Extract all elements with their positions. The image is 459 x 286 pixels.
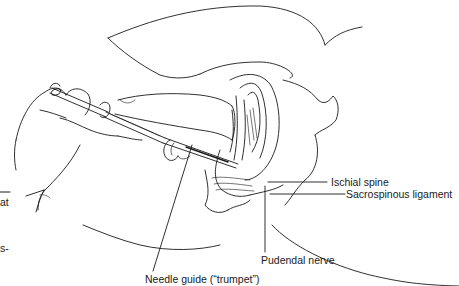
label-sacrospinous-ligament: Sacrospinous ligament xyxy=(346,188,452,200)
label-needle-guide: Needle guide (“trumpet”) xyxy=(145,273,259,285)
margin-text-fragment-1: at xyxy=(0,196,9,208)
pudendal-block-illustration: Ischial spine Sacrospinous ligament Pude… xyxy=(0,0,459,286)
margin-text-fragment-2: s- xyxy=(0,242,9,254)
label-ischial-spine: Ischial spine xyxy=(331,176,389,188)
line-drawing xyxy=(0,0,459,286)
label-pudendal-nerve: Pudendal nerve xyxy=(261,254,335,266)
